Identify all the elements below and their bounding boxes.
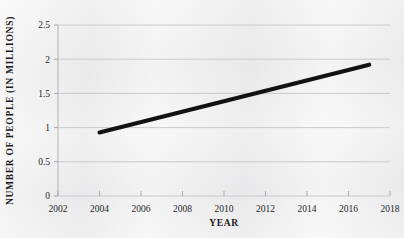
data-series-group xyxy=(100,65,370,133)
chart-canvas: 00.511.522.5 200220042006200820102012201… xyxy=(0,0,404,238)
x-tick-label: 2008 xyxy=(173,204,192,214)
x-tick-label: 2014 xyxy=(298,204,317,214)
x-tick-label: 2002 xyxy=(49,204,68,214)
x-tick-label: 2016 xyxy=(339,204,358,214)
x-axis-title: YEAR xyxy=(209,218,239,228)
y-tick-label: 2.5 xyxy=(38,20,50,30)
y-axis-title: NUMBER OF PEOPLE (IN MILLIONS) xyxy=(5,16,16,205)
x-tick-group xyxy=(58,191,390,196)
y-tick-label: 0 xyxy=(45,191,50,201)
y-tick-label: 1.5 xyxy=(38,89,50,99)
x-tick-label: 2006 xyxy=(132,204,151,214)
x-tick-label: 2004 xyxy=(90,204,109,214)
x-tick-label-group: 200220042006200820102012201420162018 xyxy=(49,204,400,214)
gridline-group xyxy=(58,25,390,196)
x-tick-label: 2012 xyxy=(256,204,275,214)
y-tick-label: 1 xyxy=(45,123,50,133)
y-tick-group xyxy=(54,25,58,196)
x-tick-label: 2010 xyxy=(215,204,234,214)
y-tick-label: 0.5 xyxy=(38,157,50,167)
y-tick-label: 2 xyxy=(45,55,50,65)
x-tick-label: 2018 xyxy=(381,204,400,214)
y-tick-label-group: 00.511.522.5 xyxy=(38,20,50,201)
data-series-line xyxy=(100,65,370,133)
line-chart-figure: 00.511.522.5 200220042006200820102012201… xyxy=(0,0,404,238)
